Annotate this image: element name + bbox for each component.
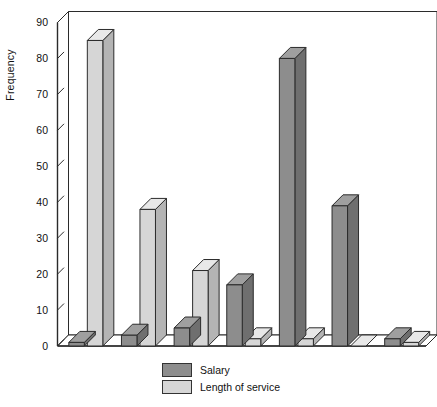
- legend-label-length-of-service: Length of service: [200, 381, 280, 393]
- bar-salary: [227, 274, 254, 346]
- legend-swatch-salary: [162, 363, 192, 377]
- y-tick-label: 40: [26, 197, 48, 208]
- y-tick-label: 70: [26, 89, 48, 100]
- bar-chart: Frequency 0102030405060708090 Salary Len…: [0, 0, 437, 407]
- y-tick-label: 30: [26, 233, 48, 244]
- y-tick-label: 80: [26, 53, 48, 64]
- legend-swatch-length-of-service: [162, 380, 192, 394]
- plot-area: [0, 0, 437, 407]
- y-axis-label: Frequency: [4, 20, 16, 130]
- legend-item: Length of service: [162, 378, 280, 395]
- y-tick-label: 0: [26, 341, 48, 352]
- y-tick-label: 90: [26, 17, 48, 28]
- y-tick-label: 50: [26, 161, 48, 172]
- bar-salary: [279, 47, 306, 346]
- y-tick-label: 10: [26, 305, 48, 316]
- y-tick-label: 20: [26, 269, 48, 280]
- bar-salary: [332, 195, 359, 346]
- legend-item: Salary: [162, 361, 280, 378]
- bar-length-of-service: [87, 29, 114, 346]
- legend: Salary Length of service: [162, 361, 280, 395]
- legend-label-salary: Salary: [200, 364, 230, 376]
- y-tick-label: 60: [26, 125, 48, 136]
